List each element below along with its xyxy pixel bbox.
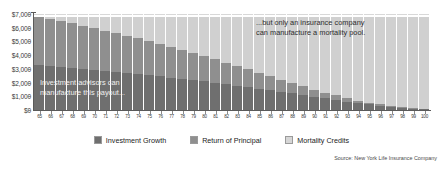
bar-segment — [199, 17, 209, 56]
bar-segment — [188, 17, 198, 53]
bar-column — [386, 14, 397, 110]
bar-segment — [221, 84, 231, 110]
legend-item-label: Mortality Credits — [297, 136, 349, 145]
y-axis-tick — [28, 96, 31, 97]
bar-segment — [331, 100, 341, 110]
x-axis-tick-label: 92 — [331, 113, 342, 123]
x-axis-tick-label: 99 — [408, 113, 419, 123]
bar-segment — [221, 63, 231, 85]
y-axis-tick — [28, 41, 31, 42]
x-axis-tick-label: 88 — [287, 113, 298, 123]
bar-segment — [177, 17, 187, 50]
bar-column — [419, 14, 430, 110]
bar-column — [232, 14, 243, 110]
bar-segment — [89, 28, 99, 70]
bar-segment — [166, 47, 176, 78]
bar-segment — [210, 83, 220, 110]
bar-segment — [177, 50, 187, 79]
legend-item-return-of-principal: Return of Principal — [190, 136, 261, 145]
annotation-right: ...but only an insurance company can man… — [256, 18, 365, 38]
bar-segment — [254, 73, 264, 89]
x-axis-tick-label: 93 — [342, 113, 353, 123]
bar-segment — [122, 36, 132, 73]
bar-column — [221, 14, 232, 110]
bar-segment — [375, 17, 385, 105]
x-axis-tick-label: 90 — [309, 113, 320, 123]
bar-segment — [243, 69, 253, 87]
x-axis-tick-label: 89 — [298, 113, 309, 123]
bar-segment — [100, 31, 110, 71]
x-axis-tick-label: 70 — [89, 113, 100, 123]
x-axis-tick-label: 69 — [78, 113, 89, 123]
bar-segment — [122, 17, 132, 36]
bar-column — [155, 14, 166, 110]
bar-segment — [265, 90, 275, 110]
bar-column — [177, 14, 188, 110]
x-axis-tick-label: 76 — [155, 113, 166, 123]
bar-segment — [397, 17, 407, 107]
bar-column — [188, 14, 199, 110]
y-axis-tick — [28, 14, 31, 15]
bar-segment — [155, 76, 165, 110]
y-axis-tick — [28, 55, 31, 56]
x-axis-tick-label: 78 — [177, 113, 188, 123]
x-axis-tick-label: 71 — [100, 113, 111, 123]
x-axis-tick-label: 80 — [199, 113, 210, 123]
bar-segment — [243, 87, 253, 110]
bar-column — [133, 14, 144, 110]
y-axis-tick — [28, 28, 31, 29]
x-axis-tick-label: 91 — [320, 113, 331, 123]
y-axis-line — [33, 12, 34, 111]
x-axis-tick-label: 74 — [133, 113, 144, 123]
bar-segment — [232, 17, 242, 66]
bar-segment — [144, 75, 154, 110]
bar-segment — [298, 86, 308, 95]
bar-segment — [232, 86, 242, 110]
bar-segment — [353, 103, 363, 110]
bar-column — [144, 14, 155, 110]
bar-segment — [144, 17, 154, 42]
bar-segment — [243, 17, 253, 70]
y-axis-tick — [28, 110, 31, 111]
x-axis-tick-label: 83 — [232, 113, 243, 123]
bar-segment — [177, 79, 187, 110]
bar-segment — [221, 17, 231, 63]
bar-segment — [111, 17, 121, 33]
x-axis-tick-label: 79 — [188, 113, 199, 123]
x-axis-tick-label: 75 — [144, 113, 155, 123]
y-axis-cap — [31, 12, 36, 13]
chart-legend: Investment Growth Return of Principal Mo… — [0, 132, 443, 148]
bar-segment — [298, 95, 308, 110]
bar-segment — [78, 26, 88, 69]
bar-segment — [287, 93, 297, 110]
x-axis-tick-labels: 6566676869707172737475767778798081828384… — [34, 113, 430, 123]
bar-column — [397, 14, 408, 110]
bar-segment — [210, 59, 220, 82]
bar-segment — [276, 92, 286, 110]
x-axis-tick-label: 82 — [221, 113, 232, 123]
annotation-left: Investment advisors can manufacture this… — [40, 78, 125, 98]
bar-column — [364, 14, 375, 110]
bar-segment — [45, 19, 55, 66]
bar-segment — [408, 17, 418, 108]
y-axis-tick — [28, 69, 31, 70]
source-note: Source: New York Life Insurance Company — [334, 155, 437, 161]
legend-item-investment-growth: Investment Growth — [94, 136, 166, 145]
bar-segment — [342, 102, 352, 111]
bar-segment — [133, 74, 143, 110]
bar-segment — [419, 17, 429, 109]
x-axis-tick-label: 87 — [276, 113, 287, 123]
bar-segment — [155, 44, 165, 76]
bar-segment — [155, 17, 165, 44]
y-axis-tick — [28, 83, 31, 84]
bar-segment — [56, 21, 66, 67]
bar-segment — [309, 97, 319, 110]
legend-item-label: Investment Growth — [106, 136, 166, 145]
bar-segment — [287, 83, 297, 93]
bar-segment — [254, 89, 264, 110]
bar-segment — [210, 17, 220, 60]
bar-segment — [276, 80, 286, 92]
bar-segment — [144, 41, 154, 75]
bar-segment — [111, 33, 121, 72]
x-axis-tick-label: 97 — [386, 113, 397, 123]
